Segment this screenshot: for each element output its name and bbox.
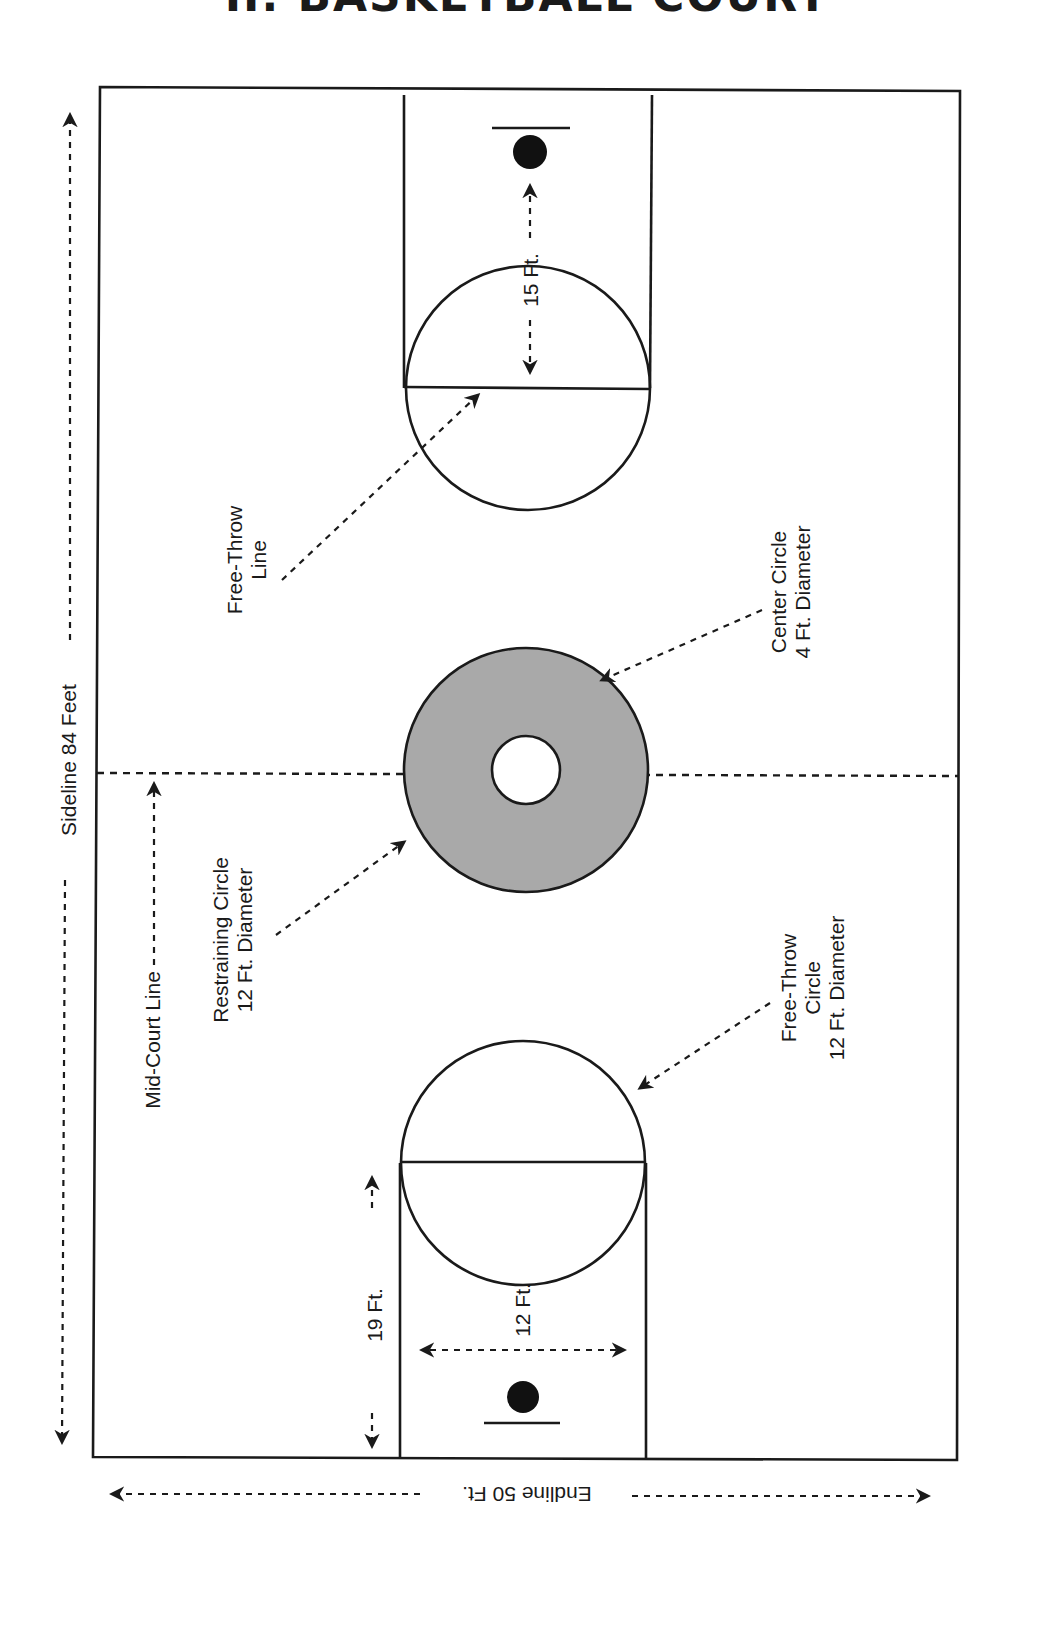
dim-12ft: 12 Ft.	[422, 1283, 624, 1350]
svg-text:Center Circle: Center Circle	[767, 531, 790, 654]
sideline-arrow-bottom	[62, 880, 65, 1442]
bottom-key	[400, 1041, 646, 1458]
svg-text:12 Ft.: 12 Ft.	[511, 1283, 534, 1337]
top-basket	[513, 135, 547, 169]
svg-text:12 Ft. Diameter: 12 Ft. Diameter	[825, 916, 848, 1061]
svg-text:Free-Throw: Free-Throw	[223, 505, 246, 614]
svg-text:Restraining Circle: Restraining Circle	[209, 857, 232, 1023]
top-free-throw-line	[404, 387, 650, 389]
mid-court-label: Mid-Court Line	[141, 971, 164, 1109]
free-throw-circle-label: Free-Throw Circle 12 Ft. Diameter	[640, 916, 848, 1088]
svg-text:15 Ft.: 15 Ft.	[519, 253, 542, 307]
dim-15ft: 15 Ft.	[519, 186, 542, 372]
svg-text:19 Ft.: 19 Ft.	[363, 1288, 386, 1342]
svg-text:Line: Line	[247, 540, 270, 580]
basketball-court-diagram: Sideline 84 Feet Endline 50 Ft. Mid-Cour…	[0, 0, 1054, 1635]
restraining-circle-label: Restraining Circle 12 Ft. Diameter	[209, 842, 404, 1023]
sideline-label: Sideline 84 Feet	[57, 684, 80, 836]
svg-text:Circle: Circle	[801, 961, 824, 1015]
svg-text:12 Ft. Diameter: 12 Ft. Diameter	[233, 868, 256, 1013]
center-circle	[492, 736, 560, 804]
free-throw-line-label: Free-Throw Line	[223, 395, 478, 614]
svg-text:Free-Throw: Free-Throw	[777, 933, 800, 1042]
svg-text:4 Ft. Diameter: 4 Ft. Diameter	[791, 525, 814, 658]
center-circle-label: Center Circle 4 Ft. Diameter	[602, 525, 814, 680]
bottom-basket	[507, 1381, 539, 1413]
endline-label: Endline 50 Ft.	[462, 1483, 592, 1506]
dim-19ft: 19 Ft.	[363, 1178, 386, 1446]
